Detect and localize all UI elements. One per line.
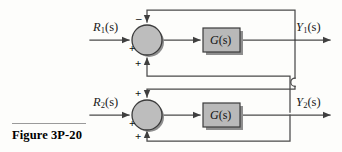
summing-junction-bottom [132,100,164,132]
sum-bottom-sign-left: + [129,118,135,129]
y1-to-bottom-junction-segment-b [147,86,295,97]
r2-label: R2(s) [93,96,118,110]
sum-bottom-sign-bottom: + [135,131,141,142]
y1-label: Y1(s) [296,21,321,35]
y1-crossing-hop [291,78,295,86]
sum-top-sign-bottom: + [135,58,141,69]
r1-label: R1(s) [93,21,118,35]
sum-top-sign-left: + [129,43,135,54]
summing-junction-top [132,25,164,57]
y2-label: Y2(s) [296,96,321,110]
figure-container: R1(s) R2(s) Y1(s) Y2(s) G(s) G(s) – + + … [0,0,342,152]
g-block-bottom-label: G(s) [210,109,231,121]
sum-top-sign-top: – [136,13,142,24]
figure-caption: Figure 3P-20 [12,128,82,143]
caption-divider [12,123,86,124]
sum-bottom-sign-top: + [135,88,141,99]
g-block-top-label: G(s) [210,34,231,46]
